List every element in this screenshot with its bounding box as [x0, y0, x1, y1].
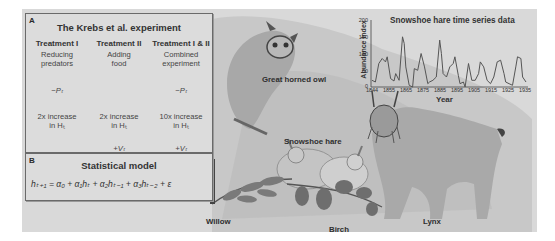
model-equation: hₜ₊₁ = α₀ + α₁hₜ + α₂hₜ₋₁ + α₃hₜ₋₂ + ε: [31, 179, 209, 189]
herbivore-effect: 2x increase: [100, 112, 139, 121]
experiment-title: The Krebs et al. experiment: [26, 22, 212, 33]
model-title: Statistical model: [26, 160, 212, 171]
predator-effect: −Pₜ: [26, 86, 88, 98]
herbivore-effect: 2x increase: [38, 112, 77, 121]
treatment-desc: food: [112, 59, 127, 68]
treatment-desc: experiment: [162, 59, 200, 68]
herbivore-effect: 10x increase: [159, 112, 202, 121]
treatment-heading: Treatment I & II: [150, 39, 212, 48]
herbivore-effect: in Hₜ: [111, 121, 127, 130]
treatment-3: Treatment I & II Combinedexperiment −Pₜ …: [150, 39, 212, 154]
treatment-heading: Treatment I: [26, 39, 88, 48]
statistical-model-box: B Statistical model hₜ₊₁ = α₀ + α₁hₜ + α…: [25, 153, 213, 201]
krebs-experiment-box: A The Krebs et al. experiment Treatment …: [25, 13, 213, 153]
treatment-desc: predators: [41, 59, 73, 68]
treatment-columns: Treatment I Reducingpredators −Pₜ 2x inc…: [26, 39, 212, 154]
birch-label: Birch: [329, 225, 349, 232]
hare-label: Snowshoe hare: [284, 137, 342, 146]
predator-effect: [88, 86, 150, 98]
hare-abundance-line: [372, 37, 526, 87]
willow-label: Willow: [206, 217, 231, 226]
figure-panel: A The Krebs et al. experiment Treatment …: [22, 9, 537, 232]
treatment-2: Treatment II Addingfood 2x increasein Hₜ…: [88, 39, 150, 154]
treatment-desc: Adding: [107, 50, 131, 59]
herbivore-effect: in Hₜ: [173, 121, 189, 130]
herbivore-effect: in Hₜ: [49, 121, 65, 130]
treatment-heading: Treatment II: [88, 39, 150, 48]
treatment-desc: Combined: [164, 50, 199, 59]
lynx-label: Lynx: [423, 217, 441, 226]
predator-effect: −Pₜ: [150, 86, 212, 98]
hare-time-series-chart: Snowshoe hare time series data Abundance…: [348, 12, 534, 112]
owl-label: Great horned owl: [262, 75, 326, 84]
chart-plot-area: [348, 12, 534, 112]
treatment-desc: Reducing: [41, 50, 73, 59]
treatment-1: Treatment I Reducingpredators −Pₜ 2x inc…: [26, 39, 88, 154]
